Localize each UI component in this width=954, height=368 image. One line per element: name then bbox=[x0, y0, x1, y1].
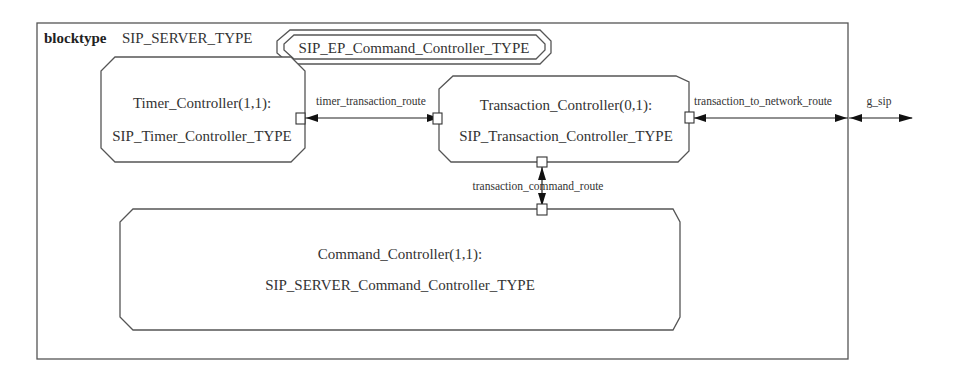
block-command-controller[interactable]: Command_Controller(1,1): SIP_SERVER_Comm… bbox=[120, 209, 680, 330]
block-timer-controller[interactable]: Timer_Controller(1,1): SIP_Timer_Control… bbox=[101, 57, 305, 162]
timer-port bbox=[296, 113, 305, 124]
arrowhead-left-icon bbox=[694, 114, 706, 122]
arrowhead-left-icon bbox=[850, 114, 862, 122]
inherited-type-label: SIP_EP_Command_Controller_TYPE bbox=[299, 40, 530, 56]
command-type-label: SIP_SERVER_Command_Controller_TYPE bbox=[265, 277, 535, 293]
arrowhead-right-icon bbox=[835, 114, 847, 122]
transaction-port-bottom bbox=[537, 157, 547, 167]
timer-type-label: SIP_Timer_Controller_TYPE bbox=[112, 128, 291, 144]
route-label-transaction-network: transaction_to_network_route bbox=[694, 95, 832, 107]
transaction-instance-label: Transaction_Controller(0,1): bbox=[480, 97, 652, 114]
transaction-port-right bbox=[685, 112, 694, 123]
route-timer-transaction[interactable]: timer_transaction_route bbox=[296, 95, 442, 124]
route-transaction-network[interactable]: transaction_to_network_route bbox=[685, 95, 848, 123]
sdl-diagram-canvas: blocktype SIP_SERVER_TYPE SIP_EP_Command… bbox=[0, 0, 954, 368]
timer-instance-label: Timer_Controller(1,1): bbox=[133, 95, 271, 112]
command-port-top bbox=[537, 204, 547, 215]
transaction-type-label: SIP_Transaction_Controller_TYPE bbox=[459, 128, 673, 144]
arrowhead-right-icon bbox=[899, 114, 913, 122]
gate-g-sip[interactable]: g_sip bbox=[849, 95, 913, 122]
block-transaction-controller[interactable]: Transaction_Controller(0,1): SIP_Transac… bbox=[439, 76, 689, 162]
command-instance-label: Command_Controller(1,1): bbox=[318, 246, 483, 263]
inherited-type-symbol[interactable]: SIP_EP_Command_Controller_TYPE bbox=[277, 30, 551, 64]
blocktype-name: SIP_SERVER_TYPE bbox=[122, 30, 253, 46]
gate-label-g-sip: g_sip bbox=[867, 95, 892, 108]
route-label-transaction-command: transaction_command_route bbox=[473, 180, 604, 192]
transaction-port-left bbox=[433, 113, 442, 124]
route-transaction-command[interactable]: transaction_command_route bbox=[473, 157, 604, 215]
arrowhead-left-icon bbox=[306, 114, 318, 122]
blocktype-keyword: blocktype bbox=[44, 30, 107, 46]
route-label-timer-transaction: timer_transaction_route bbox=[316, 95, 426, 107]
arrowhead-up-icon bbox=[538, 167, 546, 180]
